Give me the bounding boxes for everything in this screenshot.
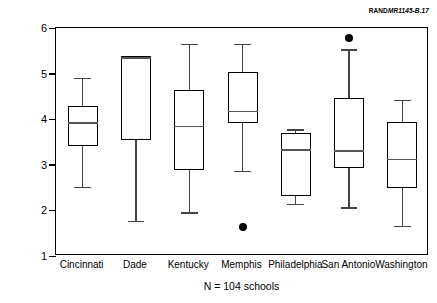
whisker-lower [295, 196, 296, 204]
boxplot-kentucky [174, 28, 204, 254]
x-label-dade: Dade [108, 258, 161, 272]
box-iqr [174, 90, 204, 170]
whisker-lower [242, 123, 243, 171]
median-line [68, 122, 98, 124]
whisker-lower [82, 146, 83, 187]
box-iqr [387, 122, 417, 188]
outlier-point [345, 34, 353, 42]
y-tick-label: 6 [30, 20, 47, 36]
whisker-upper [82, 78, 83, 105]
whisker-lower [189, 170, 190, 212]
x-label-kentucky: Kentucky [162, 258, 215, 272]
boxplot-cincinnati [68, 28, 98, 254]
x-axis-labels: CincinnatiDadeKentuckyMemphisPhiladelphi… [55, 258, 428, 274]
whisker-cap-upper [287, 129, 304, 130]
y-tick-mark [49, 210, 56, 212]
whisker-upper [189, 44, 190, 91]
y-tick-mark [49, 164, 56, 166]
x-label-philadelphia: Philadelphia [268, 258, 321, 272]
whisker-upper [348, 49, 349, 97]
figure-identifier: RANDMR1145-B.17 [369, 7, 429, 14]
y-tick-mark [49, 28, 56, 30]
y-axis-title: Block scheduling for specific curricular… [0, 0, 20, 303]
x-label-memphis: Memphis [215, 258, 268, 272]
whisker-cap-upper [181, 44, 198, 45]
whisker-cap-lower [287, 204, 304, 205]
median-line [281, 149, 311, 151]
x-label-cincinnati: Cincinnati [55, 258, 108, 272]
whisker-lower [402, 188, 403, 226]
whisker-cap-lower [128, 221, 145, 222]
boxplot-memphis [228, 28, 258, 254]
box-iqr [121, 56, 151, 139]
whisker-lower [348, 168, 349, 207]
whisker-cap-upper [341, 49, 358, 50]
whisker-cap-upper [394, 100, 411, 101]
whisker-cap-upper [234, 44, 251, 45]
whisker-cap-lower [394, 226, 411, 227]
whisker-cap-lower [74, 187, 91, 188]
box-iqr [334, 98, 364, 168]
boxplot-philadelphia [281, 28, 311, 254]
whisker-upper [402, 100, 403, 122]
boxplot-dade [121, 28, 151, 254]
outlier-point [239, 223, 247, 231]
whisker-cap-lower [341, 207, 358, 208]
boxplot-washington [387, 28, 417, 254]
median-line [121, 57, 151, 59]
whisker-cap-lower [234, 171, 251, 172]
median-line [334, 150, 364, 152]
box-iqr [68, 106, 98, 146]
boxplot-san-antonio [334, 28, 364, 254]
chart-caption: N = 104 schools [55, 280, 428, 292]
x-label-washington: Washington [375, 258, 428, 272]
plot-area: 123456 [55, 27, 428, 255]
box-iqr [228, 72, 258, 123]
y-tick-mark [49, 119, 56, 121]
median-line [174, 126, 204, 128]
rand-logo-text: RAND [369, 7, 388, 14]
whisker-upper [242, 44, 243, 72]
x-label-san-antonio: San Antonio [321, 258, 374, 272]
median-line [228, 111, 258, 113]
figure-number: MR1145-B.17 [388, 7, 429, 14]
whisker-lower [135, 140, 136, 221]
whisker-cap-lower [181, 212, 198, 213]
y-tick-mark [49, 256, 56, 258]
median-line [387, 159, 417, 161]
whisker-cap-upper [74, 78, 91, 79]
box-iqr [281, 133, 311, 195]
y-tick-mark [49, 73, 56, 75]
